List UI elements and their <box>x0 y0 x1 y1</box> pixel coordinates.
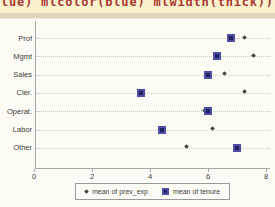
x-tick-label: 6 <box>202 172 214 181</box>
square-marker <box>227 34 235 42</box>
square-marker <box>233 144 241 152</box>
graph-window: mean of prev_exp mean of tenure ProfMgmt… <box>0 19 275 207</box>
stata-code-text: lue) mlcolor(blue) mlwidth(thick)) <box>1 0 275 9</box>
x-tick-label: 0 <box>28 172 40 181</box>
square-marker <box>204 107 212 115</box>
x-axis-line <box>35 168 270 169</box>
diamond-marker-icon <box>84 189 88 193</box>
category-label: Sales <box>0 70 32 79</box>
category-label: Cler. <box>0 88 32 97</box>
legend-item-prev-exp: mean of prev_exp <box>85 188 148 195</box>
category-label: Labor <box>0 125 32 134</box>
category-label: Prof <box>0 34 32 43</box>
x-tick-label: 8 <box>260 172 272 181</box>
square-marker-icon <box>162 188 169 195</box>
legend-item-tenure: mean of tenure <box>162 188 220 195</box>
category-label: Operat. <box>0 107 32 116</box>
legend-label-prev-exp: mean of prev_exp <box>92 188 148 195</box>
grid-line <box>36 130 270 131</box>
category-label: Mgmt <box>0 52 32 61</box>
grid-line <box>36 56 270 57</box>
stata-book-screenshot: lue) mlcolor(blue) mlwidth(thick)) mean … <box>0 0 275 207</box>
legend-label-tenure: mean of tenure <box>173 188 220 195</box>
grid-line <box>36 93 270 94</box>
legend: mean of prev_exp mean of tenure <box>75 183 230 200</box>
square-marker <box>213 52 221 60</box>
x-tick-label: 2 <box>86 172 98 181</box>
grid-line <box>36 111 270 112</box>
stata-code-line-strip: lue) mlcolor(blue) mlwidth(thick)) <box>0 0 275 13</box>
y-axis-line <box>35 21 36 168</box>
grid-line <box>36 75 270 76</box>
x-tick-label: 4 <box>144 172 156 181</box>
category-label: Other <box>0 143 32 152</box>
square-marker <box>204 71 212 79</box>
square-marker <box>137 89 145 97</box>
square-marker <box>158 126 166 134</box>
